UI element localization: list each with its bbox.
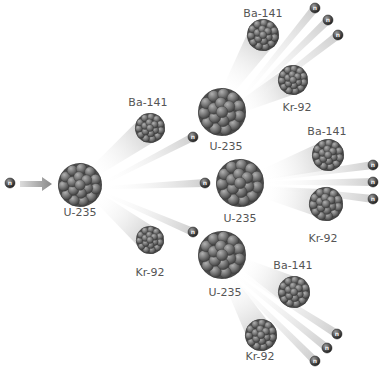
neutron-symbol: n xyxy=(191,133,195,140)
neutron-gen1-top: n xyxy=(188,132,198,142)
nucleus-ba141-gen1 xyxy=(135,113,165,143)
label-kr92-gen1: Kr-92 xyxy=(136,266,165,279)
neutron-symbol: n xyxy=(326,16,330,23)
neutron-symbol: n xyxy=(371,161,375,168)
label-u235-mid: U-235 xyxy=(223,212,256,225)
label-ba141-bottom: Ba-141 xyxy=(273,259,312,272)
neutron-symbol: n xyxy=(203,179,207,186)
incoming-arrow xyxy=(20,177,52,191)
nucleus-kr92-mid xyxy=(309,187,343,221)
nucleon xyxy=(146,124,153,131)
neutron-bottom-1: n xyxy=(332,329,342,339)
neutron-mid-1: n xyxy=(368,160,378,170)
label-kr92-bottom: Kr-92 xyxy=(246,350,275,363)
nucleon xyxy=(216,249,228,261)
neutron-mid-3: n xyxy=(368,194,378,204)
neutron-symbol: n xyxy=(313,4,317,11)
nucleon xyxy=(147,237,154,244)
nucleus-kr92-bottom xyxy=(245,319,277,351)
nucleon xyxy=(257,331,265,339)
nucleon xyxy=(324,151,332,159)
nucleon xyxy=(234,177,246,189)
nucleon xyxy=(75,180,86,191)
nucleus-u235-mid xyxy=(216,159,264,207)
nucleus-kr92-top xyxy=(278,65,308,95)
neutron-gen1-mid: n xyxy=(200,178,210,188)
nucleus-ba141-top xyxy=(247,19,279,51)
neutron-top-3: n xyxy=(333,30,343,40)
neutron-bottom-3: n xyxy=(310,356,320,366)
nucleon xyxy=(259,31,267,39)
neutron-top-1: n xyxy=(310,3,320,13)
label-ba141-top: Ba-141 xyxy=(243,7,282,20)
nucleus-ba141-mid xyxy=(312,139,344,171)
neutron-incoming: n xyxy=(5,178,15,188)
neutron-symbol: n xyxy=(313,357,317,364)
label-kr92-top: Kr-92 xyxy=(283,101,312,114)
label-u235-top: U-235 xyxy=(209,140,242,153)
neutron-mid-2: n xyxy=(368,177,378,187)
nucleon xyxy=(216,106,228,118)
nucleus-ba141-bottom xyxy=(278,276,310,308)
label-ba141-gen1: Ba-141 xyxy=(128,96,167,109)
label-u235-bottom: U-235 xyxy=(208,286,241,299)
neutron-top-2: n xyxy=(323,15,333,25)
trail-neutron-mid xyxy=(100,179,205,189)
label-ba141-mid: Ba-141 xyxy=(307,125,346,138)
nucleus-u235-top xyxy=(198,88,246,136)
nucleon xyxy=(290,288,298,296)
neutron-symbol: n xyxy=(336,31,340,38)
nucleus-kr92-gen1 xyxy=(136,226,164,254)
neutron-symbol: n xyxy=(371,195,375,202)
nucleon xyxy=(322,200,330,208)
nucleon xyxy=(289,76,296,83)
nucleus-u235-bottom xyxy=(198,231,246,279)
neutron-bottom-2: n xyxy=(322,343,332,353)
fission-diagram: nnnnnnnnnnnnn U-235 Ba-141 Kr-92 U-235 B… xyxy=(0,0,382,374)
neutron-gen1-bottom: n xyxy=(188,227,198,237)
neutron-symbol: n xyxy=(191,228,195,235)
label-u235-gen1: U-235 xyxy=(63,206,96,219)
neutron-symbol: n xyxy=(8,179,12,186)
neutron-symbol: n xyxy=(335,330,339,337)
label-kr92-mid: Kr-92 xyxy=(309,232,338,245)
neutron-symbol: n xyxy=(371,178,375,185)
neutron-symbol: n xyxy=(325,344,329,351)
nucleus-u235-gen1 xyxy=(58,163,102,207)
